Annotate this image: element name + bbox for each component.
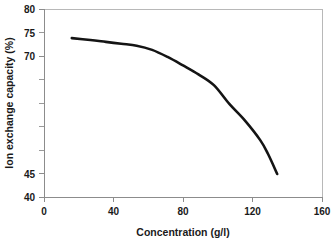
x-axis-title: Concentration (g/l)	[136, 226, 229, 238]
data-series-line	[72, 38, 277, 174]
y-axis-title: Ion exchange capacity (%)	[3, 37, 15, 168]
y-tick-label-45: 45	[24, 169, 36, 180]
y-tick-label-40: 40	[24, 192, 36, 203]
chart-figure: 80 75 70 45 40 0 40 80 120 160 Concentra…	[0, 0, 334, 244]
y-tick-label-80: 80	[24, 4, 36, 15]
x-tick-label-160: 160	[314, 206, 331, 217]
x-tick-label-80: 80	[177, 206, 189, 217]
x-tick-label-120: 120	[244, 206, 261, 217]
plot-frame	[44, 9, 322, 197]
y-tick-label-70: 70	[24, 51, 36, 62]
y-tick-label-75: 75	[24, 28, 36, 39]
x-tick-label-40: 40	[108, 206, 120, 217]
line-chart: 80 75 70 45 40 0 40 80 120 160 Concentra…	[0, 0, 334, 244]
x-tick-label-0: 0	[41, 206, 47, 217]
